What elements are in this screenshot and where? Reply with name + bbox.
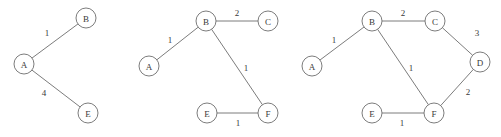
graph-node: B xyxy=(76,8,96,28)
nodes-layer: ABEABCEFABCDEF xyxy=(14,8,490,123)
graph-node: A xyxy=(14,54,34,74)
node-label: B xyxy=(369,17,375,27)
edge-weight-label: 1 xyxy=(332,35,337,45)
graph-node: A xyxy=(139,56,159,76)
graph-figure: ABEABCEFABCDEF 141211123211 xyxy=(0,0,501,137)
graph-node: E xyxy=(362,103,382,123)
graph-node: C xyxy=(258,11,278,31)
edge-weight-label: 3 xyxy=(475,28,480,38)
edge-weight-label: 1 xyxy=(244,63,249,73)
graph-edge xyxy=(320,27,364,60)
node-label: B xyxy=(203,17,209,27)
edge-weight-label: 2 xyxy=(235,8,240,18)
graph-node: C xyxy=(425,11,445,31)
edge-weight-label: 1 xyxy=(400,118,405,128)
node-label: A xyxy=(146,62,153,72)
edge-weight-label: 4 xyxy=(42,88,47,98)
graph-node: B xyxy=(196,11,216,31)
edge-weight-label: 1 xyxy=(168,35,173,45)
node-label: E xyxy=(369,109,375,119)
node-label: F xyxy=(431,109,436,119)
edge-weight-label: 2 xyxy=(401,8,406,18)
graph-node: F xyxy=(258,103,278,123)
node-label: B xyxy=(83,14,89,24)
graph-edge xyxy=(378,29,429,104)
node-label: D xyxy=(477,58,484,68)
node-label: C xyxy=(432,17,438,27)
node-label: C xyxy=(265,17,271,27)
graph-edge xyxy=(32,70,80,107)
graph-edge xyxy=(157,27,198,60)
graph-node: F xyxy=(424,103,444,123)
graph-node: B xyxy=(362,11,382,31)
graph-node: D xyxy=(470,52,490,72)
node-label: A xyxy=(309,62,316,72)
edges-layer xyxy=(32,21,473,113)
edge-weight-label: 1 xyxy=(236,118,241,128)
node-label: E xyxy=(204,109,210,119)
node-label: E xyxy=(85,109,91,119)
graph-node: E xyxy=(197,103,217,123)
graph-edge xyxy=(212,29,263,104)
node-label: A xyxy=(21,60,28,70)
graph-node: E xyxy=(78,103,98,123)
edge-weight-label: 2 xyxy=(466,87,471,97)
graph-edge xyxy=(32,24,78,58)
node-label: F xyxy=(265,109,270,119)
graph-node: A xyxy=(302,56,322,76)
graph-canvas: ABEABCEFABCDEF 141211123211 xyxy=(0,0,501,137)
graph-edge xyxy=(442,28,472,56)
edge-weight-label: 1 xyxy=(45,28,50,38)
edge-weight-label: 1 xyxy=(409,63,414,73)
